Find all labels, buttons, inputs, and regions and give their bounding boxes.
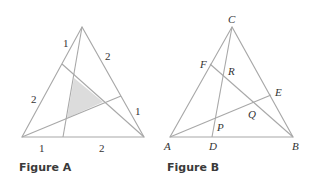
point-a: A	[163, 140, 171, 152]
point-b: B	[292, 140, 299, 152]
label-right-upper: 2	[105, 50, 111, 62]
point-p: P	[216, 121, 224, 133]
caption-figure-b: Figure B	[167, 161, 219, 174]
diagram-canvas: 1 2 2 1 1 2 Figure A C F R E Q P A D B F…	[0, 0, 315, 178]
figure-a: 1 2 2 1 1 2 Figure A	[19, 27, 144, 174]
label-left-upper: 1	[63, 37, 69, 49]
figure-b: C F R E Q P A D B Figure B	[163, 13, 299, 174]
point-c: C	[228, 13, 236, 25]
point-e: E	[274, 86, 282, 98]
label-right-lower: 1	[135, 105, 141, 117]
point-r: R	[227, 65, 235, 77]
point-d: D	[208, 140, 217, 152]
point-q: Q	[248, 108, 256, 120]
label-bottom-right: 2	[99, 142, 105, 154]
label-bottom-left: 1	[39, 142, 45, 154]
caption-figure-a: Figure A	[19, 161, 72, 174]
point-f: F	[199, 58, 207, 70]
label-left-lower: 2	[31, 93, 37, 105]
